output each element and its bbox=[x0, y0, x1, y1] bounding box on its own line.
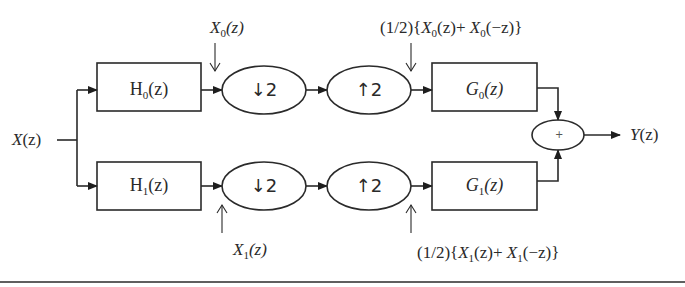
adder-plus-symbol: + bbox=[555, 130, 563, 140]
x0-annotation: X0(z) bbox=[210, 19, 244, 36]
h0-sub: 0 bbox=[143, 89, 149, 101]
bottom-a-arg: (z)+ bbox=[474, 243, 507, 262]
upsampler-top-label: ↑2 bbox=[327, 81, 411, 99]
x0-name: X bbox=[210, 18, 220, 37]
h1-name: H bbox=[130, 175, 143, 195]
filter-bank-diagram bbox=[0, 0, 685, 287]
top-b-arg: (−z)} bbox=[486, 18, 523, 37]
bottom-b-arg: (−z)} bbox=[523, 243, 560, 262]
h1-arg: (z) bbox=[148, 175, 168, 195]
h1-label: H1(z) bbox=[97, 176, 201, 194]
g0-name: G bbox=[466, 79, 479, 99]
upsampler-bottom-label: ↑2 bbox=[327, 177, 411, 195]
bottom-b-sub: 1 bbox=[517, 252, 523, 264]
top-prefix: (1/2){ bbox=[380, 18, 421, 37]
input-symbol: X bbox=[12, 130, 22, 149]
x1-annotation: X1(z) bbox=[233, 241, 267, 258]
arrow-g1-to-adder bbox=[537, 150, 558, 181]
g1-sub: 1 bbox=[479, 185, 485, 197]
x0-sub: 0 bbox=[220, 27, 226, 39]
bottom-a: X bbox=[458, 243, 468, 262]
x1-arg: (z) bbox=[249, 240, 267, 259]
downsampler-top-label: ↓2 bbox=[222, 81, 306, 99]
x1-name: X bbox=[233, 240, 243, 259]
top-a-sub: 0 bbox=[432, 27, 438, 39]
x1-sub: 1 bbox=[243, 249, 249, 261]
bottom-upsampled-annotation: (1/2){X1(z)+ X1(−z)} bbox=[417, 244, 559, 261]
h0-arg: (z) bbox=[148, 79, 168, 99]
top-upsampled-annotation: (1/2){X0(z)+ X0(−z)} bbox=[380, 19, 522, 36]
bottom-a-sub: 1 bbox=[469, 252, 475, 264]
bottom-b: X bbox=[507, 243, 517, 262]
output-arg: (z) bbox=[639, 125, 658, 144]
x0-arg: (z) bbox=[226, 18, 244, 37]
g1-arg: (z) bbox=[484, 175, 503, 195]
top-a-arg: (z)+ bbox=[437, 18, 470, 37]
h0-label: H0(z) bbox=[97, 80, 201, 98]
top-a: X bbox=[421, 18, 431, 37]
input-arg: (z) bbox=[22, 130, 41, 149]
g0-label: G0(z) bbox=[432, 80, 537, 98]
g0-arg: (z) bbox=[484, 79, 503, 99]
h0-name: H bbox=[130, 79, 143, 99]
h1-sub: 1 bbox=[143, 185, 149, 197]
top-b: X bbox=[470, 18, 480, 37]
output-label: Y(z) bbox=[630, 126, 658, 143]
top-b-sub: 0 bbox=[480, 27, 486, 39]
arrow-g0-to-adder bbox=[537, 88, 558, 120]
g0-sub: 0 bbox=[479, 89, 485, 101]
g1-label: G1(z) bbox=[432, 176, 537, 194]
downsampler-bottom-label: ↓2 bbox=[222, 177, 306, 195]
bottom-prefix: (1/2){ bbox=[417, 243, 458, 262]
input-label: X(z) bbox=[12, 131, 41, 148]
g1-name: G bbox=[466, 175, 479, 195]
